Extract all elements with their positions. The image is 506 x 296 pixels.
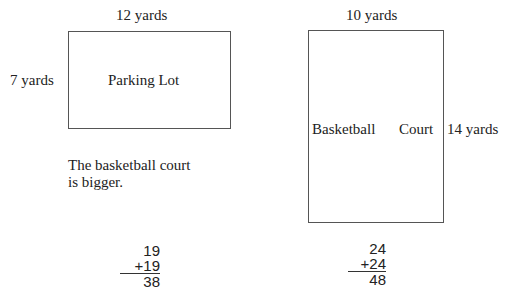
- addend: 19: [120, 243, 160, 258]
- conclusion-line-1: The basketball court: [68, 157, 190, 174]
- court-height-label: 14 yards: [447, 121, 498, 138]
- parking-lot-name: Parking Lot: [108, 72, 179, 89]
- parking-lot-height-label: 7 yards: [10, 72, 54, 89]
- conclusion-line-2: is bigger.: [68, 174, 123, 191]
- parking-lot-width-label: 12 yards: [116, 7, 167, 24]
- court-width-label: 10 yards: [346, 7, 397, 24]
- addition-problem-2: 24 +24 48: [348, 241, 386, 287]
- sum-total: 48: [348, 272, 386, 287]
- court-name-part1: Basketball: [312, 121, 375, 138]
- plus-addend: +24: [348, 256, 386, 272]
- sum-total: 38: [120, 274, 160, 289]
- plus-addend: +19: [120, 258, 160, 274]
- addition-problem-1: 19 +19 38: [120, 243, 160, 289]
- court-name-part2: Court: [399, 121, 433, 138]
- addend: 24: [348, 241, 386, 256]
